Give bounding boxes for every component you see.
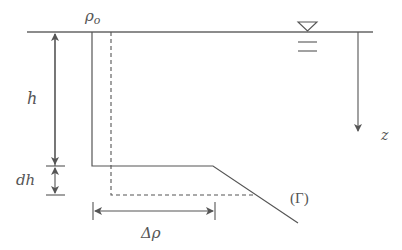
water-level-icon [298, 22, 317, 51]
h-label: h [27, 89, 37, 108]
delta-rho-dimension-arrow [93, 202, 215, 220]
density-profile-diagram: ρo h dh Δρ z (Γ) [0, 0, 402, 250]
rho-o-label: ρo [84, 7, 101, 27]
z-label: z [380, 127, 389, 143]
dashed-density-profile [111, 32, 254, 195]
delta-rho-label: Δρ [140, 224, 161, 242]
dh-label: dh [16, 171, 35, 189]
dh-dimension-arrow [46, 166, 65, 195]
gamma-label: (Γ) [290, 190, 309, 207]
solid-density-profile [92, 32, 298, 223]
